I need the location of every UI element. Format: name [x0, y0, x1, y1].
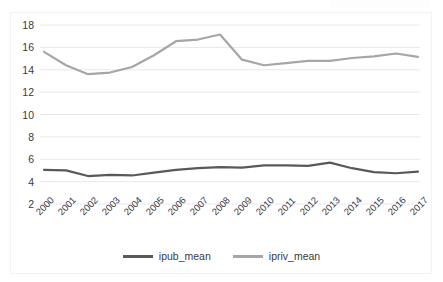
series-line-ipub-mean [44, 163, 418, 176]
y-axis-tick-6: 6 [8, 154, 34, 164]
y-axis-tick-10: 10 [8, 110, 34, 120]
chart-legend: ipub_mean ipriv_mean [0, 250, 443, 262]
y-axis-tick-14: 14 [8, 65, 34, 75]
y-axis-tick-16: 16 [8, 42, 34, 52]
plot-area [0, 0, 443, 282]
y-axis-tick-4: 4 [8, 177, 34, 187]
y-axis-tick-12: 12 [8, 87, 34, 97]
legend-item-ipub-mean[interactable]: ipub_mean [123, 250, 211, 262]
chart-container: 24681012141618 2000200120022003200420052… [0, 0, 443, 282]
y-axis-tick-2: 2 [8, 199, 34, 209]
data-series-group [44, 35, 418, 177]
legend-item-ipriv-mean[interactable]: ipriv_mean [233, 250, 320, 262]
y-axis-tick-18: 18 [8, 20, 34, 30]
series-line-ipriv-mean [44, 35, 418, 75]
y-axis-tick-8: 8 [8, 132, 34, 142]
legend-swatch-ipub-mean [123, 255, 153, 258]
legend-label-ipriv-mean: ipriv_mean [269, 250, 320, 262]
legend-swatch-ipriv-mean [233, 255, 263, 258]
legend-label-ipub-mean: ipub_mean [159, 250, 211, 262]
gridlines [40, 25, 420, 204]
